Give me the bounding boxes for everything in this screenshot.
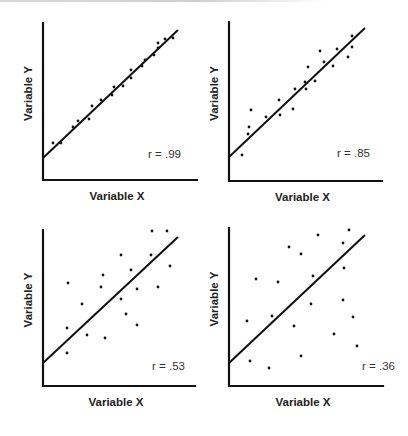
data-point <box>351 46 354 49</box>
data-point <box>67 282 70 285</box>
data-point <box>172 37 175 40</box>
data-point <box>294 88 297 91</box>
data-point <box>271 315 274 318</box>
data-point <box>307 66 310 69</box>
data-point <box>91 105 94 108</box>
data-point <box>246 320 249 323</box>
scatter-panel-2: Variable YVariable Xr = .85 <box>208 22 382 203</box>
data-point <box>151 230 154 233</box>
correlation-coefficient-label: r = .36 <box>362 360 395 372</box>
y-axis-label: Variable Y <box>22 272 34 327</box>
data-point <box>150 254 153 257</box>
data-point <box>293 325 296 328</box>
data-point <box>169 265 172 268</box>
y-axis-label: Variable Y <box>208 271 220 326</box>
x-axis-label: Variable X <box>90 190 145 202</box>
data-point <box>342 299 345 302</box>
data-point <box>102 274 105 277</box>
data-point <box>72 126 75 129</box>
data-point <box>300 355 303 358</box>
data-point <box>305 88 308 91</box>
data-point <box>319 50 322 53</box>
data-point <box>343 267 346 270</box>
regression-line <box>229 28 365 157</box>
data-point <box>278 99 281 102</box>
data-point <box>332 65 335 68</box>
data-point <box>268 367 271 370</box>
data-point <box>336 48 339 51</box>
data-point <box>241 154 244 157</box>
axes <box>229 228 383 386</box>
data-point <box>141 65 144 68</box>
data-point <box>111 94 114 97</box>
data-point <box>153 54 156 57</box>
data-point <box>247 133 250 136</box>
data-point <box>356 345 359 348</box>
data-point <box>157 42 160 45</box>
data-point <box>164 38 167 41</box>
data-point <box>104 337 107 340</box>
data-point <box>81 303 84 306</box>
data-point <box>136 324 139 327</box>
data-point <box>120 298 123 301</box>
scatter-panel-1: Variable YVariable Xr = .99 <box>22 23 197 202</box>
data-point <box>249 360 252 363</box>
x-axis-label: Variable X <box>276 396 331 408</box>
data-point <box>86 334 89 337</box>
regression-line <box>43 237 178 363</box>
correlation-coefficient-label: r = .53 <box>152 360 185 372</box>
data-point <box>248 126 251 129</box>
x-axis-label: Variable X <box>89 396 144 408</box>
data-point <box>279 114 282 117</box>
data-point <box>130 77 133 80</box>
data-point <box>277 281 280 284</box>
data-point <box>333 333 336 336</box>
data-point <box>100 99 103 102</box>
data-point <box>342 242 345 245</box>
data-point <box>323 61 326 64</box>
data-point <box>351 35 354 38</box>
data-point <box>113 86 116 89</box>
data-point <box>77 120 80 123</box>
data-point <box>292 108 295 111</box>
data-point <box>100 286 103 289</box>
data-point <box>312 275 315 278</box>
data-point <box>157 47 160 50</box>
data-point <box>250 109 253 112</box>
correlation-coefficient-label: r = .99 <box>148 148 181 160</box>
data-point <box>310 303 313 306</box>
data-point <box>130 69 133 72</box>
data-point <box>157 286 160 289</box>
data-point <box>314 80 317 83</box>
data-point <box>52 142 55 145</box>
data-point <box>125 313 128 316</box>
data-point <box>66 327 69 330</box>
data-point <box>166 230 169 233</box>
correlation-coefficient-label: r = .85 <box>337 147 370 159</box>
data-point <box>130 269 133 272</box>
data-point <box>265 116 268 119</box>
correlation-scatter-grid: Variable YVariable Xr = .99Variable YVar… <box>0 0 408 436</box>
data-point <box>120 254 123 257</box>
scatter-panel-4: Variable YVariable Xr = .36 <box>208 228 395 408</box>
data-point <box>255 278 258 281</box>
data-point <box>348 229 351 232</box>
data-point <box>304 81 307 84</box>
data-point <box>66 352 69 355</box>
y-axis-label: Variable Y <box>22 66 34 121</box>
data-point <box>144 59 147 62</box>
data-point <box>88 118 91 121</box>
data-point <box>288 246 291 249</box>
x-axis-label: Variable X <box>275 191 330 203</box>
data-point <box>60 142 63 145</box>
data-point <box>136 288 139 291</box>
data-point <box>352 316 355 319</box>
data-point <box>122 85 125 88</box>
data-point <box>317 234 320 237</box>
y-axis-label: Variable Y <box>208 66 220 121</box>
data-point <box>300 253 303 256</box>
scatter-panel-3: Variable YVariable Xr = .53 <box>22 230 195 408</box>
regression-line <box>229 235 365 363</box>
data-point <box>347 56 350 59</box>
